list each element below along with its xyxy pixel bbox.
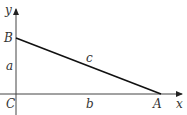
hypotenuse-c bbox=[16, 38, 161, 94]
vertex-b-label: B bbox=[3, 31, 13, 45]
side-a-label: a bbox=[6, 59, 13, 73]
triangle-diagram: y B a c C b A x bbox=[0, 0, 187, 115]
side-c-label: c bbox=[86, 51, 93, 65]
vertex-c-label: C bbox=[6, 97, 15, 111]
vertex-a-label: A bbox=[152, 97, 162, 111]
side-b-label: b bbox=[86, 97, 94, 111]
y-axis-label: y bbox=[4, 3, 12, 17]
x-axis-label: x bbox=[176, 97, 183, 111]
